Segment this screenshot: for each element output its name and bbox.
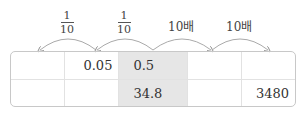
arrow-arcs [0,0,303,56]
table-cell-highlighted: 0.5 [118,52,186,79]
table-cell: 0.05 [64,52,118,79]
table-cell [187,52,241,79]
table-cell: 3480 [241,80,295,107]
table-row: 0.05 0.5 [11,52,295,79]
arrow-label-ten-times-1: 10배 [168,17,194,34]
arrow-label-one-tenth-1: 1 10 [60,10,74,35]
denominator: 10 [117,24,131,35]
table-cell [11,80,64,107]
arrow-label-one-tenth-2: 1 10 [117,10,131,35]
numerator: 1 [64,10,71,21]
table-row: 34.8 3480 [11,79,295,107]
table-cell [241,52,295,79]
denominator: 10 [60,24,74,35]
numerator: 1 [121,10,128,21]
table-cell [64,80,118,107]
place-value-table: 0.05 0.5 34.8 3480 [10,51,296,107]
table-cell [187,80,241,107]
table-cell [11,52,64,79]
table-cell-highlighted: 34.8 [118,80,186,107]
arrow-label-ten-times-2: 10배 [226,17,252,34]
